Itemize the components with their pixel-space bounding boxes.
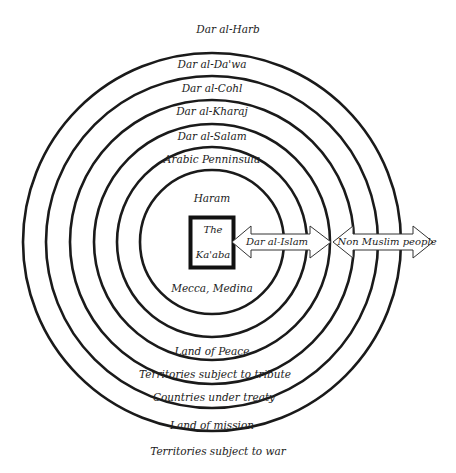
- label-territories-war: Territories subject to war: [150, 445, 286, 457]
- label-haram: Haram: [194, 192, 231, 204]
- concentric-territory-diagram: Dar al-Harb Dar al-Da'wa Dar al-Cohl Dar…: [0, 0, 456, 473]
- label-dar-al-kharaj: Dar al-Kharaj: [176, 105, 248, 117]
- label-land-of-peace: Land of Peace: [175, 345, 250, 357]
- label-kaaba-line1: The: [203, 224, 222, 235]
- label-dar-al-dawa: Dar al-Da'wa: [177, 58, 246, 70]
- label-dar-al-cohl: Dar al-Cohl: [182, 82, 243, 94]
- label-land-of-mission: Land of mission: [170, 419, 254, 431]
- label-countries-treaty: Countries under treaty: [153, 391, 275, 403]
- label-kaaba-line2: Ka'aba: [196, 249, 231, 260]
- label-arabic-peninsula: Arabic Penninsula: [164, 153, 260, 165]
- label-dar-al-harb: Dar al-Harb: [196, 23, 259, 35]
- label-mecca-medina: Mecca, Medina: [171, 282, 253, 294]
- label-dar-al-salam: Dar al-Salam: [177, 130, 246, 142]
- label-territories-tribute: Territories subject to tribute: [139, 368, 291, 380]
- label-non-muslim-people: Non Muslim people: [337, 236, 436, 248]
- label-dar-al-islam: Dar al-Islam: [246, 236, 308, 248]
